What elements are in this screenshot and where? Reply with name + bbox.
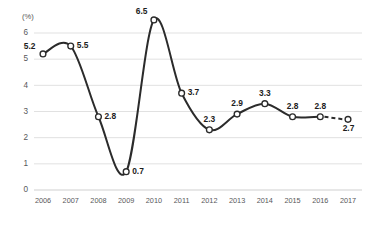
data-point-label: 0.7: [132, 166, 144, 176]
data-point-marker: [96, 114, 102, 120]
chart-canvas: 0123456 20062007200820092010201120122013…: [0, 0, 379, 228]
data-point-marker: [179, 90, 185, 96]
data-point-marker: [123, 169, 129, 175]
data-point-marker: [262, 101, 268, 107]
data-point-label: 5.2: [24, 41, 36, 51]
x-axis-tick-labels: 2006200720082009201020112012201320142015…: [35, 196, 356, 205]
gridlines: [34, 33, 362, 190]
x-axis-tick-label: 2007: [63, 196, 79, 205]
x-axis-tick-label: 2010: [146, 196, 162, 205]
line-chart: 0123456 20062007200820092010201120122013…: [0, 0, 379, 228]
data-point-marker: [317, 114, 323, 120]
data-point-label: 6.5: [136, 6, 148, 16]
y-axis-tick-label: 1: [23, 159, 28, 168]
y-axis-tick-label: 2: [23, 133, 28, 142]
data-point-marker: [151, 17, 157, 23]
x-axis-tick-label: 2011: [174, 196, 190, 205]
data-point-marker: [234, 111, 240, 117]
y-axis-tick-label: 4: [23, 81, 28, 90]
data-point-label: 2.8: [314, 101, 326, 111]
y-axis-tick-label: 5: [23, 54, 28, 63]
y-axis-tick-label: 6: [23, 28, 28, 37]
y-axis-tick-labels: 0123456: [23, 28, 28, 194]
x-axis-tick-label: 2006: [35, 196, 51, 205]
data-point-label: 5.5: [77, 40, 89, 50]
data-point-label: 2.7: [343, 123, 355, 133]
data-point-label: 2.8: [287, 101, 299, 111]
data-point-label: 2.9: [231, 98, 243, 108]
x-axis-tick-label: 2015: [284, 196, 300, 205]
data-point-label: 2.8: [104, 111, 116, 121]
x-axis-tick-label: 2008: [90, 196, 106, 205]
y-axis-tick-label: 3: [23, 107, 28, 116]
y-axis-unit-label: (%): [22, 12, 34, 21]
x-axis-tick-label: 2016: [312, 196, 328, 205]
data-point-marker: [40, 51, 46, 57]
data-point-label: 2.3: [204, 114, 216, 124]
x-axis-tick-label: 2014: [257, 196, 273, 205]
x-axis-tick-label: 2012: [201, 196, 217, 205]
data-point-marker: [68, 43, 74, 49]
data-point-labels: 5.25.52.80.76.53.72.32.93.32.82.82.7: [24, 6, 355, 176]
data-point-marker: [345, 116, 351, 122]
data-point-marker: [206, 127, 212, 133]
x-axis-tick-label: 2009: [118, 196, 134, 205]
y-axis-tick-label: 0: [23, 185, 28, 194]
series-line-dashed-forecast: [324, 117, 343, 120]
data-point-label: 3.7: [188, 87, 200, 97]
x-axis-tick-label: 2013: [229, 196, 245, 205]
x-axis-tick-label: 2017: [340, 196, 356, 205]
data-point-marker: [290, 114, 296, 120]
data-point-label: 3.3: [259, 88, 271, 98]
